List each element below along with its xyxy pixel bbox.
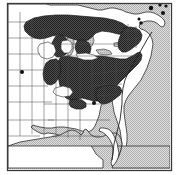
- dot-northeast-coast: [139, 21, 143, 25]
- dot-new-england-b: [161, 11, 165, 15]
- dot-great-plains: [20, 70, 24, 74]
- dot-maritimes-b: [164, 4, 167, 7]
- map-canvas: [0, 0, 178, 175]
- range-map-figure: Eastern United States N Breeding range I…: [0, 0, 178, 175]
- range-hole-upper: [61, 40, 72, 53]
- range-hole-interior: [38, 42, 56, 59]
- dot-lower-great-lakes: [138, 18, 141, 21]
- dot-carolinas: [92, 101, 96, 105]
- dot-new-england-a: [149, 6, 153, 10]
